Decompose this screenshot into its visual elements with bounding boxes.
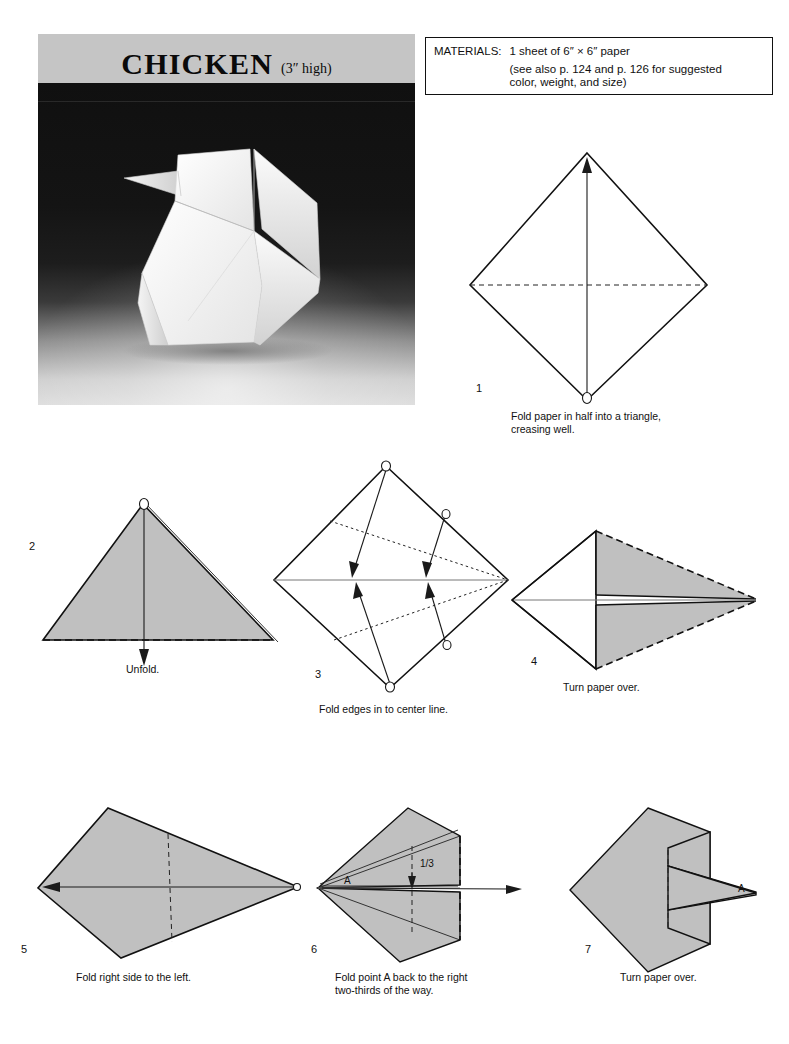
step-6-diagram: A 1/3: [308, 800, 558, 975]
step-4-number: 4: [531, 655, 537, 667]
step-1-number: 1: [476, 382, 482, 394]
step-6-number: 6: [311, 943, 317, 955]
step-3-caption: Fold edges in to center line.: [319, 703, 448, 716]
materials-line-3: color, weight, and size): [510, 76, 722, 90]
step-4-diagram: [508, 505, 768, 665]
step-3-diagram: [268, 458, 518, 693]
model-size-note: (3″ high): [281, 61, 332, 77]
materials-label: MATERIALS:: [434, 45, 502, 90]
step-7-diagram: A: [528, 800, 778, 975]
step-4-caption: Turn paper over.: [563, 681, 640, 694]
materials-line-1: 1 sheet of 6″ × 6″ paper: [510, 45, 722, 59]
step-7-caption: Turn paper over.: [620, 971, 697, 984]
photo-block: CHICKEN (3″ high): [38, 34, 415, 405]
materials-box: MATERIALS: 1 sheet of 6″ × 6″ paper (see…: [425, 37, 773, 95]
step-5-diagram: [16, 798, 306, 968]
materials-line-2: (see also p. 124 and p. 126 for suggeste…: [510, 63, 722, 77]
step-3-number: 3: [315, 668, 321, 680]
step-2-diagram: [28, 492, 298, 672]
step-6-measure-label: 1/3: [420, 858, 434, 869]
step-6-point-label: A: [344, 875, 351, 886]
step-5-caption: Fold right side to the left.: [76, 971, 191, 984]
step-2-number: 2: [29, 540, 35, 552]
origami-instruction-page: CHICKEN (3″ high): [0, 0, 789, 1044]
step-7-number: 7: [585, 943, 591, 955]
step-5-number: 5: [21, 943, 27, 955]
step-7-point-label: A: [738, 883, 745, 894]
step-6-caption: Fold point A back to the right two-third…: [335, 971, 468, 997]
step-1-caption: Fold paper in half into a triangle, crea…: [511, 410, 661, 436]
page-title: CHICKEN: [121, 49, 273, 79]
origami-chicken-photo: [38, 83, 415, 405]
step-1-diagram: [462, 145, 722, 410]
step-2-caption: Unfold.: [126, 663, 159, 676]
chicken-model-art: [38, 83, 415, 405]
title-band: CHICKEN (3″ high): [38, 34, 415, 83]
